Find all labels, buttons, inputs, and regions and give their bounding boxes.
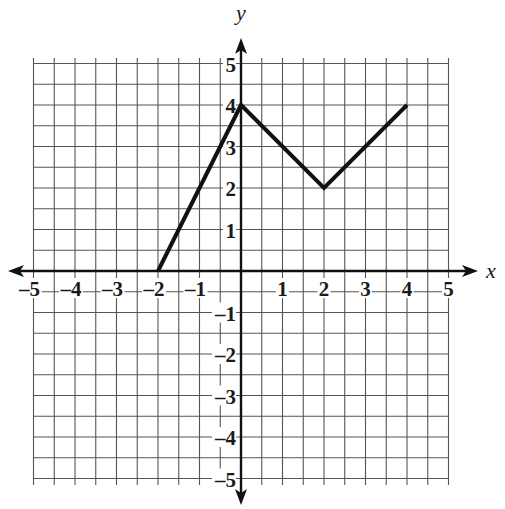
y-tick-label: 2 <box>226 177 237 201</box>
y-tick-label: 1 <box>226 219 237 243</box>
y-axis-title: y <box>234 0 246 25</box>
x-tick-label: –4 <box>60 277 83 301</box>
y-tick-label: –5 <box>214 468 236 492</box>
x-tick-label: –2 <box>143 277 165 301</box>
x-tick-label: –3 <box>101 277 123 301</box>
x-axis-title: x <box>485 258 496 283</box>
x-tick-label: –1 <box>184 277 206 301</box>
x-tick-label: 2 <box>319 277 330 301</box>
y-tick-label: –4 <box>214 426 237 450</box>
y-tick-label: –3 <box>214 385 236 409</box>
y-tick-label: –1 <box>214 302 236 326</box>
x-tick-label: –5 <box>18 277 40 301</box>
coordinate-plane: –5–4–3–2–112345–5–4–3–2–112345 x y <box>0 0 505 509</box>
x-tick-label: 5 <box>443 277 454 301</box>
y-tick-label: –2 <box>214 343 236 367</box>
y-tick-label: 3 <box>226 136 237 160</box>
x-tick-label: 4 <box>402 277 413 301</box>
x-tick-label: 1 <box>277 277 288 301</box>
y-tick-label: 5 <box>226 53 237 77</box>
x-tick-label: 3 <box>360 277 371 301</box>
